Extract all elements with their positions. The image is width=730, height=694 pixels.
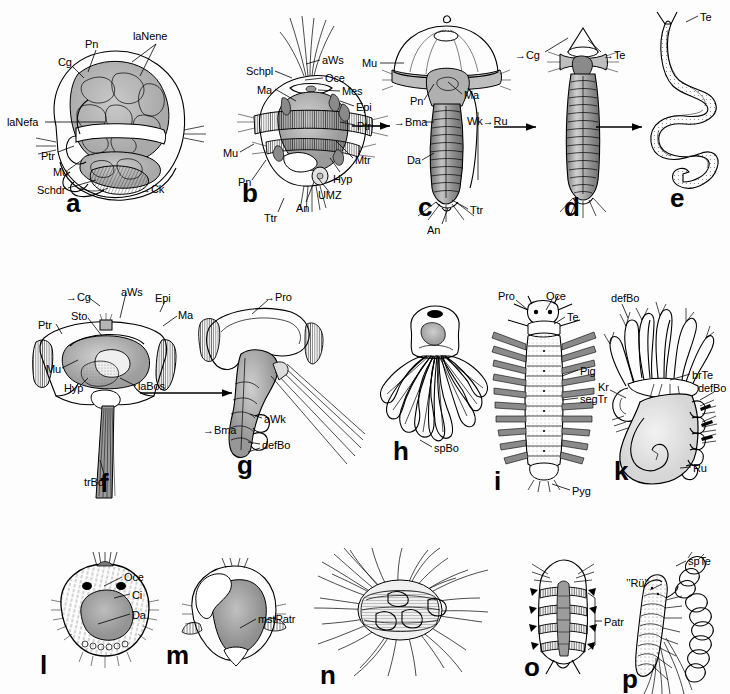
panel-l-artwork [45, 552, 165, 672]
panel-letter-p: p [622, 666, 638, 692]
label-a-schdr: Schdr [37, 185, 65, 196]
arrow-glyph-g-pro: → [264, 291, 275, 303]
panel-l: l [45, 552, 165, 672]
label-a-cg: Cg [58, 57, 72, 68]
label-a-mu: Mu [53, 167, 68, 178]
label-c-ttr: Ttr [470, 205, 483, 216]
panel-letter-l: l [40, 652, 47, 678]
arrow-glyph-a-ck: → [140, 183, 151, 195]
label-k-defbo-right: defBo [698, 383, 726, 394]
label-l-da: Da [132, 610, 146, 621]
label-c-wk: Wk→Ru [467, 116, 507, 127]
label-a-ck: →Ck [140, 184, 164, 195]
label-l-oce: Oce [124, 572, 144, 583]
label-f-aws: aWs [121, 287, 143, 298]
label-b-schpl: Schpl [246, 66, 273, 77]
panel-letter-e: e [670, 185, 684, 211]
label-b-mu: Mu [223, 148, 238, 159]
panel-letter-o: o [524, 654, 540, 680]
panel-n-artwork [310, 548, 490, 678]
label-f-trbo: trBo [84, 477, 104, 488]
label-h-spbo: spBo [434, 443, 459, 454]
panel-letter-k: k [614, 458, 628, 484]
arrow-glyph-f-cg: → [66, 291, 77, 303]
panel-letter-n: n [320, 662, 336, 688]
label-g-pro: →Pro [264, 292, 292, 303]
label-b-ptr: Ptr [357, 121, 371, 132]
label-a-pn: Pn [85, 39, 98, 50]
label-p-ru: ’’Rü’’ [626, 578, 649, 589]
label-i-pro: Pro [498, 291, 515, 302]
panel-p-artwork [624, 548, 724, 694]
label-d-te: →Te [603, 50, 625, 61]
label-l-ci: Ci [132, 590, 142, 601]
label-c-ma: Ma [464, 90, 479, 101]
label-b-an: An [296, 203, 309, 214]
label-b-ttr: Ttr [264, 213, 277, 224]
panel-e-artwork [645, 10, 725, 210]
arrow-glyph-g-bma: → [203, 424, 214, 436]
label-c-ru-text: Ru [494, 115, 508, 127]
panel-letter-h: h [393, 438, 409, 464]
label-f-ptr: Ptr [38, 320, 52, 331]
label-b-epi: Epi [356, 102, 372, 113]
label-b-pn: Pn [238, 177, 251, 188]
label-i-te: Te [567, 312, 578, 323]
label-i-oce: Oce [546, 291, 566, 302]
panel-e: e [645, 10, 725, 210]
label-i-pyg: Pyg [572, 486, 591, 497]
label-k-kr: Kr [598, 382, 609, 393]
panel-g-artwork [195, 288, 365, 488]
figure-plate: a Pn laNene Cg laNefa Ptr Mu Schdr →Ck [0, 0, 730, 694]
label-b-mes: Mes [342, 86, 362, 97]
label-f-epi: Epi [155, 293, 171, 304]
label-a-ptr: Ptr [41, 151, 55, 162]
label-d-te-text: Te [614, 49, 625, 61]
label-f-ma: Ma [178, 310, 193, 321]
label-p-spte: spTe [688, 556, 711, 567]
label-k-brte: brTe [692, 370, 713, 381]
label-b-ma: Ma [257, 85, 272, 96]
label-f-cg: →Cg [66, 292, 91, 303]
label-b-aws: aWs [322, 55, 344, 66]
label-b-umz: UMZ [318, 190, 342, 201]
label-f-cg-text: Cg [77, 291, 91, 303]
label-b-hyp: Hyp [333, 174, 352, 185]
label-d-cg-text: Cg [526, 49, 540, 61]
label-f-hyp: Hyp [64, 383, 83, 394]
label-i-pig: Pig [580, 366, 596, 377]
label-g-pro-text: Pro [275, 291, 292, 303]
panel-letter-a: a [66, 190, 80, 216]
label-f-sto: Sto [71, 311, 87, 322]
label-b-mtr: Mtr [355, 155, 371, 166]
label-a-ck-text: Ck [151, 183, 164, 195]
panel-letter-i: i [494, 468, 501, 494]
label-d-cg: →Cg [515, 50, 540, 61]
panel-o: o [518, 556, 608, 676]
label-a-lanefa: laNefa [7, 117, 38, 128]
label-f-labos: laBos [138, 381, 165, 392]
arrow-glyph-c-wk-ru: → [483, 115, 494, 127]
label-b-oce: Oce [325, 73, 345, 84]
label-c-an: An [427, 225, 440, 236]
panel-g: g [195, 288, 365, 488]
panel-letter-c: c [418, 194, 432, 220]
label-g-awk: aWk [264, 414, 286, 425]
label-o-patr: Patr [604, 617, 624, 628]
label-g-bma-text: Bma [214, 424, 236, 436]
label-c-wk-text: Wk [467, 115, 483, 127]
label-c-bma-text: Bma [405, 116, 427, 128]
panel-n: n [310, 548, 490, 678]
label-c-pn: Pn [410, 96, 423, 107]
label-g-bma: →Bma [203, 425, 236, 436]
arrow-glyph-c-bma: → [394, 116, 405, 128]
label-c-bma: →Bma [394, 117, 427, 128]
panel-letter-m: m [166, 642, 189, 668]
panel-letter-g: g [237, 452, 253, 478]
label-e-te: Te [700, 12, 711, 23]
arrow-glyph-d-te: → [603, 49, 614, 61]
label-c-mu: Mu [362, 58, 377, 69]
label-k-defbo-top: defBo [611, 293, 639, 304]
label-f-mu: Mu [46, 364, 61, 375]
label-c-da: Da [407, 155, 421, 166]
